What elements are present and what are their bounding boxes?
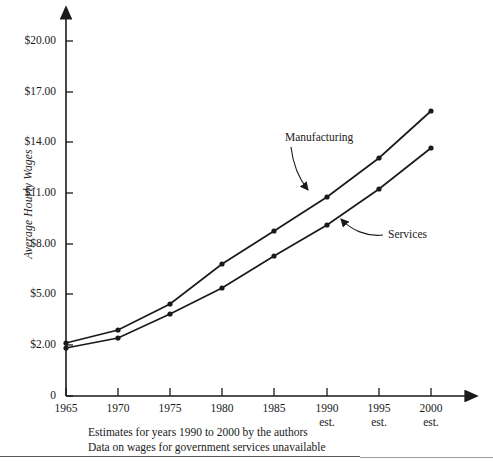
y-tick-label-2: $2.00 bbox=[0, 338, 56, 350]
x-tick-sublabel-2000: est. bbox=[406, 416, 456, 428]
y-tick-label-5: $5.00 bbox=[0, 287, 56, 299]
x-tick-label-1990: 1990 bbox=[302, 402, 352, 414]
y-tick-label-11: $11.00 bbox=[0, 186, 56, 198]
footnote-estimates: Estimates for years 1990 to 2000 by the … bbox=[88, 426, 308, 438]
services-annotation-arrow bbox=[341, 219, 383, 235]
x-tick-label-1965: 1965 bbox=[41, 402, 91, 414]
y-axis bbox=[66, 18, 73, 396]
series-manufacturing bbox=[63, 108, 433, 345]
x-tick-label-1975: 1975 bbox=[145, 402, 195, 414]
bottom-rule-right bbox=[360, 457, 493, 458]
y-tick-label-14: $14.00 bbox=[0, 135, 56, 147]
manufacturing-annotation-arrow bbox=[291, 147, 308, 190]
chart-figure: Average Hourly Wages bbox=[0, 0, 493, 461]
x-tick-sublabel-1990: est. bbox=[302, 416, 352, 428]
x-tick-label-1970: 1970 bbox=[93, 402, 143, 414]
x-tick-label-1980: 1980 bbox=[197, 402, 247, 414]
x-axis bbox=[66, 388, 466, 396]
y-tick-label-20: $20.00 bbox=[0, 34, 56, 46]
annotation-manufacturing: Manufacturing bbox=[285, 131, 353, 143]
y-tick-label-0: 0 bbox=[0, 389, 56, 401]
x-tick-label-2000: 2000 bbox=[406, 402, 456, 414]
annotation-services: Services bbox=[388, 228, 427, 240]
footnote-government-services: Data on wages for government services un… bbox=[88, 441, 326, 453]
x-tick-label-1995: 1995 bbox=[354, 402, 404, 414]
x-tick-label-1985: 1985 bbox=[249, 402, 299, 414]
y-tick-label-8: $8.00 bbox=[0, 237, 56, 249]
bottom-rule-left bbox=[0, 456, 360, 457]
y-tick-label-17: $17.00 bbox=[0, 85, 56, 97]
x-tick-sublabel-1995: est. bbox=[354, 416, 404, 428]
